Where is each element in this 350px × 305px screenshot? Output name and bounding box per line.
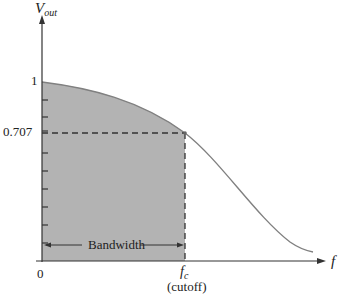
cutoff-label: (cutoff)	[167, 279, 206, 295]
bandwidth-label: Bandwidth	[88, 237, 145, 253]
origin-label: 0	[37, 266, 44, 282]
frequency-response-plot	[0, 0, 350, 305]
tick-label-0707: 0.707	[3, 124, 32, 140]
y-axis-label-main: V	[35, 0, 44, 16]
cutoff-point	[183, 131, 187, 135]
x-axis-label: f	[331, 253, 335, 270]
y-axis-label-sub: out	[44, 7, 57, 18]
fc-label: fc	[180, 264, 188, 280]
bandwidth-shaded-area	[42, 82, 185, 261]
x-axis-arrow-icon	[317, 258, 326, 264]
tick-label-one: 1	[31, 73, 38, 89]
y-axis-label: Vout	[35, 0, 57, 17]
